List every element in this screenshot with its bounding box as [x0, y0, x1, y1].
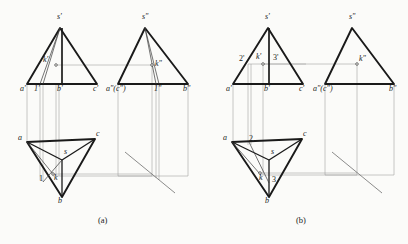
label-a-top-1: 1 — [39, 175, 43, 183]
label-a-side-k: k" — [155, 60, 162, 68]
label-a-top-c: c — [96, 130, 100, 138]
label-b-top-a: a — [223, 134, 227, 142]
label-b-top-s: s — [271, 148, 274, 156]
miter-line-a — [125, 152, 175, 193]
point-k-front-b — [262, 63, 265, 66]
label-b-side-k: k" — [359, 55, 366, 63]
label-b-front-a: a' — [226, 85, 232, 93]
label-a-front-b: b' — [57, 85, 63, 93]
label-b-front-c: c' — [299, 85, 304, 93]
caption-a: (a) — [98, 215, 107, 225]
top-inner-edges-b — [232, 139, 302, 197]
label-a-side-s: s" — [142, 13, 148, 21]
label-b-front-k: k' — [256, 53, 261, 61]
label-b-top-c: c — [303, 130, 307, 138]
label-a-side-ac: a"(c") — [106, 85, 126, 93]
label-a-side-1: 1" — [154, 85, 161, 93]
side-triangle-a — [118, 28, 188, 84]
figure-canvas: s' k' a' 1' b' c' s" k" a"(c") 1" b" a c… — [0, 0, 408, 244]
label-a-front-a: a' — [20, 85, 26, 93]
label-a-front-s: s' — [57, 13, 62, 21]
point-k-side-a — [151, 64, 154, 67]
label-b-side-ac: a"(c") — [313, 85, 333, 93]
label-b-front-s: s' — [265, 13, 270, 21]
label-b-front-3: 3' — [273, 54, 278, 62]
panel-a-lines — [27, 28, 188, 197]
side-outline-a — [118, 28, 188, 84]
point-k-front-a — [55, 64, 58, 67]
label-a-top-b: b — [58, 197, 62, 205]
caption-b: (b) — [296, 215, 306, 225]
label-a-side-b: b" — [183, 85, 190, 93]
label-b-top-k: k — [259, 174, 263, 182]
label-b-top-3: 3 — [272, 176, 276, 184]
label-a-top-k: k — [54, 174, 58, 182]
top-inner-edges-a — [27, 139, 95, 197]
label-b-side-s: s" — [349, 13, 355, 21]
label-b-top-2: 2 — [249, 135, 253, 143]
label-a-front-c: c' — [93, 85, 98, 93]
label-b-side-b: b" — [389, 85, 396, 93]
label-b-front-2: 2' — [239, 55, 244, 63]
top-line-ak-b — [232, 142, 260, 174]
label-a-top-s: s — [64, 148, 67, 156]
label-b-top-b: b — [265, 197, 269, 205]
label-a-front-k: k' — [43, 56, 48, 64]
label-b-front-b: b' — [264, 85, 270, 93]
geometry-drawing — [0, 0, 408, 244]
point-k-side-b — [356, 63, 359, 66]
label-a-front-1: 1' — [34, 85, 40, 93]
projection-lines-a — [27, 65, 188, 182]
label-a-top-a: a — [18, 134, 22, 142]
